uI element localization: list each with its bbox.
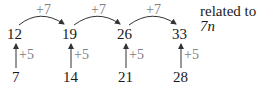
- step-label-v4: +5: [184, 48, 199, 62]
- step-label-v1: +5: [19, 48, 34, 62]
- top-value-1: 12: [7, 27, 22, 42]
- bottom-value-2: 14: [63, 70, 78, 85]
- step-label-h1: +7: [36, 3, 51, 17]
- bottom-value-4: 28: [173, 70, 188, 85]
- top-value-4: 33: [172, 27, 187, 42]
- step-label-v3: +5: [129, 48, 144, 62]
- step-arrow-3: [129, 16, 176, 25]
- step-label-v2: +5: [74, 48, 89, 62]
- step-label-h2: +7: [91, 3, 106, 17]
- step-arrow-2: [74, 16, 120, 25]
- step-arrow-1: [19, 16, 64, 25]
- step-label-h3: +7: [146, 3, 161, 17]
- bottom-value-1: 7: [12, 70, 20, 85]
- bottom-value-3: 21: [118, 70, 133, 85]
- top-value-2: 19: [62, 27, 77, 42]
- top-value-3: 26: [117, 27, 132, 42]
- relation-title: related to 7n: [200, 4, 272, 34]
